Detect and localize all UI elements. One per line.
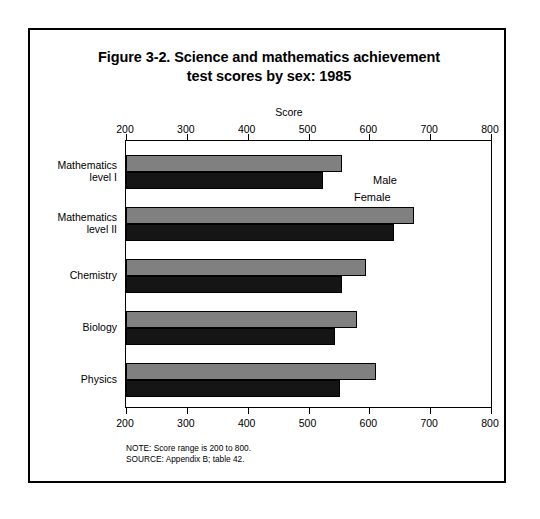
category-label-2: Mathematicslevel II	[57, 211, 117, 236]
x-tick-label-600: 600	[360, 417, 378, 429]
bar-female-4	[126, 328, 335, 345]
x-tick-label-200: 200	[116, 123, 134, 135]
figure-notes: NOTE: Score range is 200 to 800.SOURCE: …	[126, 443, 251, 464]
x-tick-label-300: 300	[177, 417, 195, 429]
x-tick-label-500: 500	[299, 123, 317, 135]
bar-male-5	[126, 363, 376, 380]
bar-female-3	[126, 276, 342, 293]
category-label-line: Mathematics	[57, 159, 117, 172]
category-label-line: level II	[57, 223, 117, 236]
figure-note-2: SOURCE: Appendix B; table 42.	[126, 454, 251, 465]
figure-title-line-1: Figure 3-2. Science and mathematics achi…	[98, 49, 440, 65]
figure-note-1: NOTE: Score range is 200 to 800.	[126, 443, 251, 454]
axis-tick-bottom-700	[430, 408, 431, 414]
category-label-line: level I	[57, 171, 117, 184]
bar-male-4	[126, 311, 357, 328]
x-tick-label-700: 700	[420, 123, 438, 135]
category-label-3: Chemistry	[70, 269, 117, 282]
category-label-line: Mathematics	[57, 211, 117, 224]
category-label-line: Biology	[83, 321, 117, 334]
axis-tick-top-300	[187, 134, 188, 140]
bar-male-2	[126, 207, 414, 224]
x-tick-label-800: 800	[481, 417, 499, 429]
axis-tick-bottom-800	[491, 408, 492, 414]
axis-tick-bottom-300	[187, 408, 188, 414]
x-axis-tick-labels-top: 200300400500600700800	[30, 123, 508, 137]
x-tick-label-400: 400	[238, 123, 256, 135]
axis-tick-top-800	[491, 134, 492, 140]
x-tick-label-600: 600	[360, 123, 378, 135]
x-tick-label-300: 300	[177, 123, 195, 135]
axis-tick-top-200	[126, 134, 127, 140]
bar-female-5	[126, 380, 340, 397]
bar-male-3	[126, 259, 366, 276]
x-axis-title: Score	[30, 106, 508, 118]
axis-tick-top-700	[430, 134, 431, 140]
category-label-line: Chemistry	[70, 269, 117, 282]
x-tick-label-700: 700	[420, 417, 438, 429]
figure-title-line-2: test scores by sex: 1985	[30, 67, 508, 86]
category-label-4: Biology	[83, 321, 117, 334]
x-tick-label-400: 400	[238, 417, 256, 429]
bar-female-1	[126, 172, 323, 189]
category-axis-labels: Mathematicslevel IMathematicslevel IIChe…	[30, 140, 123, 406]
plot-area	[125, 140, 492, 408]
bar-female-2	[126, 224, 394, 241]
category-label-5: Physics	[81, 373, 117, 386]
axis-tick-top-500	[309, 134, 310, 140]
axis-tick-bottom-400	[248, 408, 249, 414]
x-axis-tick-labels-bottom: 200300400500600700800	[30, 417, 508, 431]
axis-tick-bottom-200	[126, 408, 127, 414]
axis-tick-top-400	[248, 134, 249, 140]
figure-title: Figure 3-2. Science and mathematics achi…	[30, 48, 508, 86]
category-label-line: Physics	[81, 373, 117, 386]
bar-male-1	[126, 155, 342, 172]
x-tick-label-200: 200	[116, 417, 134, 429]
axis-tick-top-600	[369, 134, 370, 140]
figure-frame: Figure 3-2. Science and mathematics achi…	[28, 28, 506, 483]
category-label-1: Mathematicslevel I	[57, 159, 117, 184]
legend-label-male: Male	[373, 174, 397, 186]
legend-label-female: Female	[354, 191, 391, 203]
x-tick-label-500: 500	[299, 417, 317, 429]
axis-tick-bottom-600	[369, 408, 370, 414]
x-tick-label-800: 800	[481, 123, 499, 135]
axis-tick-bottom-500	[309, 408, 310, 414]
